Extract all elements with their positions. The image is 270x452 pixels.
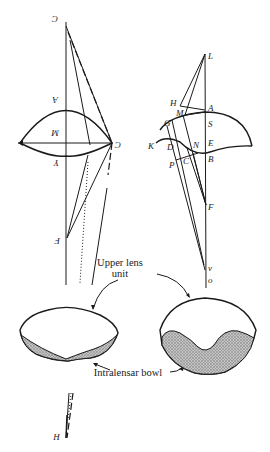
label-f: F — [54, 236, 61, 246]
label-n: N — [192, 140, 200, 150]
line-m-a — [185, 112, 205, 115]
label-d: D — [166, 142, 174, 152]
lens-optics-figure: C A M C Y F H L H M A G S K D — [0, 0, 270, 452]
left-arrow-tip-icon — [18, 140, 23, 146]
label-h: H — [53, 432, 61, 442]
line-c-top-inner — [70, 40, 90, 145]
intralensar-bowl-label: Intralensar bowl — [94, 367, 163, 378]
label-y: Y — [53, 158, 59, 168]
right-lens-unit — [160, 298, 256, 374]
ray-d-f — [187, 148, 206, 205]
ray-n-f — [193, 153, 206, 205]
label-g: G — [164, 118, 171, 128]
label-e: E — [207, 138, 214, 148]
label-a: A — [52, 95, 59, 105]
arrowhead-right-icon — [186, 293, 190, 298]
label-s: S — [208, 119, 213, 129]
label-c-right: C — [114, 140, 121, 150]
right-diagram: L H M A G S K D N E P C B F v o — [147, 51, 252, 288]
label-v: v — [208, 263, 212, 273]
label-c: C — [183, 156, 190, 166]
line-c-to-f — [67, 143, 112, 238]
label-b: B — [208, 154, 214, 164]
right-intralensar-bowl — [162, 331, 254, 375]
line-inner-to-f — [67, 155, 88, 238]
line-h-a — [180, 106, 205, 110]
label-k: K — [147, 141, 155, 151]
line-l-m — [185, 54, 205, 115]
label-a: A — [207, 103, 214, 113]
arrowhead-left-icon — [91, 305, 95, 310]
long-ray-line — [92, 188, 107, 285]
label-l: L — [207, 51, 213, 61]
label-h: H — [169, 98, 177, 108]
ray-g-v — [172, 120, 204, 265]
upper-lens-label-line1: Upper lens — [97, 257, 143, 268]
label-m: M — [51, 128, 60, 138]
left-intralensar-bowl — [21, 335, 117, 361]
label-c-top: C — [51, 14, 58, 24]
label-f: F — [207, 202, 214, 212]
label-p: P — [168, 160, 175, 170]
right-axis-line — [205, 54, 206, 288]
leader-arrow-left — [93, 280, 118, 309]
leader-arrow-right — [157, 274, 189, 297]
line-l-h — [180, 54, 205, 106]
label-m: M — [175, 108, 184, 118]
upper-lens-label-line2: unit — [112, 268, 128, 279]
label-o: o — [208, 275, 213, 285]
lower-ray-thick — [66, 415, 67, 438]
left-lens-unit — [20, 307, 118, 361]
